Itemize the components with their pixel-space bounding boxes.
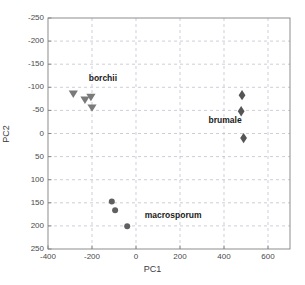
data-markers [69,90,247,229]
annotation-macrosporum: macrosporum [145,210,202,220]
y-tick-label: 100 [14,175,44,184]
data-point-borchii [80,97,89,104]
x-tick-label: 600 [248,252,288,261]
data-point-borchii [69,91,78,98]
x-tick-label: 200 [160,252,200,261]
annotation-borchii: borchii [89,73,117,83]
y-tick-label: -100 [14,82,44,91]
annotation-brumale: brumale [209,115,242,125]
data-point-macrosporum [109,198,115,204]
y-axis-label: PC2 [1,114,11,154]
y-tick-label: 200 [14,221,44,230]
data-point-brumale [240,133,247,143]
x-axis-label: PC1 [0,264,305,274]
data-point-macrosporum [124,223,130,229]
y-tick-label: 0 [14,129,44,138]
y-tick-label: -250 [14,13,44,22]
x-tick-label: 0 [116,252,156,261]
x-tick-label: 400 [204,252,244,261]
data-point-macrosporum [112,207,118,213]
x-tick-label: -200 [72,252,112,261]
y-tick-label: -150 [14,59,44,68]
y-tick-label: -50 [14,105,44,114]
y-tick-label: 50 [14,152,44,161]
plot-canvas [0,0,305,285]
data-point-borchii [87,104,96,111]
x-tick-label: -400 [28,252,68,261]
y-tick-label: -200 [14,36,44,45]
data-point-brumale [239,90,246,100]
pca-scatter-plot: 250200150100500-50-100-150-200-250 -400-… [0,0,305,285]
y-tick-label: 150 [14,198,44,207]
